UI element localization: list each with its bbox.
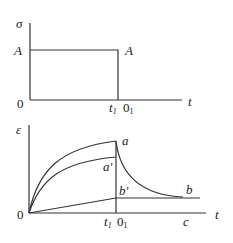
level-label-left: A [13,43,22,58]
total-strain-curve [29,141,116,213]
creep-recovery-diagram: σ A A 0 t t1 01 ε a a′ b′ b 0 t t1 01 c [0,0,233,243]
t-label-top: t [188,94,192,109]
sigma-label: σ [16,16,23,31]
point-b-label: b [186,182,193,197]
point-c-label: c [183,214,189,229]
epsilon-label: ε [16,122,22,137]
t-label-bottom: t [215,207,219,222]
strain-time-chart: ε a a′ b′ b 0 t t1 01 c [16,122,219,230]
o1-label-bottom: 01 [117,214,128,230]
point-a-label: a [122,133,129,148]
stress-step [30,50,118,100]
point-b-prime-label: b′ [119,183,129,198]
t1-label-top: t1 [109,100,117,116]
origin-label-top: 0 [17,96,24,111]
point-a-prime-label: a′ [103,159,113,174]
origin-label-bottom: 0 [17,207,24,222]
level-label-right: A [124,43,133,58]
t1-label-bottom: t1 [104,214,112,230]
stress-time-chart: σ A A 0 t t1 01 [13,16,192,116]
o1-label-top: 01 [123,100,134,116]
viscous-flow-line [29,198,116,213]
